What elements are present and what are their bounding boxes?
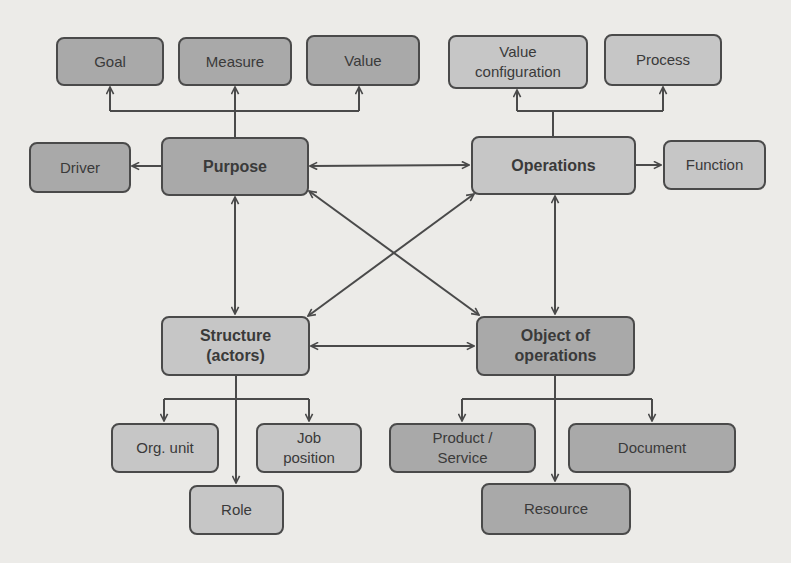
node-value-configuration-label: Value configuration [475,42,561,82]
node-job-position: Job position [256,423,362,473]
node-role-label: Role [221,500,252,520]
edge-operations-structure [308,194,474,316]
node-value-configuration: Value configuration [448,35,588,89]
node-operations-label: Operations [511,156,595,176]
node-job-position-label: Job position [283,428,335,468]
node-object-of-operations: Object of operations [476,316,635,376]
node-purpose: Purpose [161,137,309,196]
node-org-unit-label: Org. unit [136,438,194,458]
node-product-service: Product / Service [389,423,536,473]
node-document-label: Document [618,438,686,458]
node-process: Process [604,34,722,86]
node-process-label: Process [636,50,690,70]
node-value: Value [306,35,420,86]
node-function: Function [663,140,766,190]
node-resource-label: Resource [524,499,588,519]
edge-purpose-operations [310,165,469,166]
node-document: Document [568,423,736,473]
node-goal-label: Goal [94,52,126,72]
node-measure: Measure [178,37,292,86]
node-object-of-operations-label: Object of operations [515,326,597,366]
node-purpose-label: Purpose [203,157,267,177]
node-goal: Goal [56,37,164,86]
node-driver-label: Driver [60,158,100,178]
node-measure-label: Measure [206,52,264,72]
node-structure: Structure (actors) [161,316,310,376]
node-operations: Operations [471,136,636,195]
node-org-unit: Org. unit [111,423,219,473]
node-function-label: Function [686,155,744,175]
node-product-service-label: Product / Service [432,428,492,468]
node-role: Role [189,485,284,535]
node-value-label: Value [344,51,381,71]
node-resource: Resource [481,483,631,535]
node-structure-label: Structure (actors) [200,326,271,366]
node-driver: Driver [29,142,131,193]
